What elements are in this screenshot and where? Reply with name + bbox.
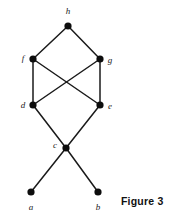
graph-node-g bbox=[96, 55, 103, 62]
graph-edge-c-a bbox=[31, 148, 66, 192]
graph-node-a bbox=[27, 188, 34, 195]
graph-node-label-f: f bbox=[22, 53, 26, 63]
figure-caption: Figure 3 bbox=[121, 195, 163, 207]
graph-node-label-e: e bbox=[108, 101, 112, 111]
figure-container: hfgdecab Figure 3 bbox=[0, 0, 172, 224]
graph-node-label-a: a bbox=[29, 202, 34, 212]
graph-node-h bbox=[64, 22, 71, 29]
graph-node-label-b: b bbox=[96, 202, 101, 212]
graph-node-d bbox=[29, 101, 36, 108]
graph-node-labels: hfgdecab bbox=[21, 6, 113, 212]
graph-node-label-h: h bbox=[66, 6, 71, 16]
graph-edge-c-b bbox=[66, 148, 98, 192]
graph-edge-e-c bbox=[66, 105, 100, 148]
graph-edge-d-c bbox=[33, 105, 66, 148]
graph-node-c bbox=[62, 144, 69, 151]
graph-node-label-g: g bbox=[108, 55, 113, 65]
graph-edges bbox=[31, 26, 100, 192]
graph-node-label-d: d bbox=[21, 100, 26, 110]
graph-node-f bbox=[29, 55, 36, 62]
graph-edge-h-g bbox=[68, 26, 100, 59]
graph-diagram: hfgdecab bbox=[0, 0, 172, 224]
graph-node-label-c: c bbox=[53, 140, 57, 150]
graph-node-b bbox=[94, 188, 101, 195]
graph-edge-h-f bbox=[33, 26, 68, 59]
graph-nodes bbox=[27, 22, 103, 195]
graph-node-e bbox=[96, 101, 103, 108]
